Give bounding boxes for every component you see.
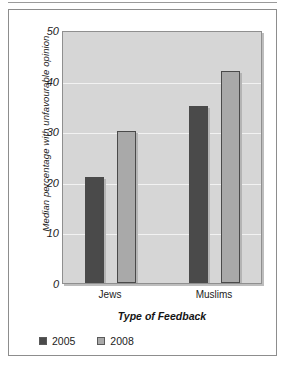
legend-label-2008: 2008 xyxy=(110,335,133,347)
bar-muslims-2005 xyxy=(189,106,208,283)
bar-chart: Median percentage with unfavourable opin… xyxy=(9,10,276,355)
bar-fill xyxy=(85,177,104,283)
legend-swatch-icon-2008 xyxy=(97,337,105,345)
bar-jews-2005 xyxy=(85,177,104,283)
y-tick-50: 50 xyxy=(25,25,59,37)
legend-item-2008: 2008 xyxy=(97,335,133,347)
y-tick-0: 0 xyxy=(25,278,59,290)
legend-item-2005: 2005 xyxy=(39,335,75,347)
x-tick-jews: Jews xyxy=(99,289,122,300)
x-tick-muslims: Muslims xyxy=(196,289,233,300)
y-tick-10: 10 xyxy=(25,227,59,239)
y-tick-30: 30 xyxy=(25,126,59,138)
figure-page: Median percentage with unfavourable opin… xyxy=(0,0,289,368)
bar-jews-2008 xyxy=(117,131,136,283)
chart-legend: 2005 2008 xyxy=(39,335,134,347)
bar-fill xyxy=(221,71,240,284)
top-divider-rule xyxy=(8,2,277,3)
y-axis-tick-labels: 0 10 20 30 40 50 xyxy=(19,10,59,355)
y-tick-20: 20 xyxy=(25,177,59,189)
plot-area xyxy=(62,31,262,284)
legend-swatch-icon-2005 xyxy=(39,337,47,345)
bar-fill xyxy=(117,131,136,283)
figure-frame: Median percentage with unfavourable opin… xyxy=(8,9,277,356)
bar-muslims-2008 xyxy=(221,71,240,284)
x-axis-title: Type of Feedback xyxy=(62,310,262,322)
legend-label-2005: 2005 xyxy=(52,335,75,347)
y-tick-40: 40 xyxy=(25,76,59,88)
bar-fill xyxy=(189,106,208,283)
